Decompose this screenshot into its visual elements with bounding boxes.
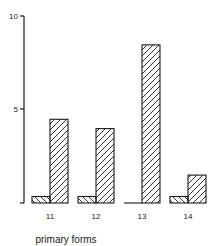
- bar-series-a-12: [78, 196, 96, 203]
- bar-series-b-14: [188, 175, 206, 203]
- bar-series-a-14: [170, 196, 188, 203]
- bars: [32, 45, 206, 203]
- x-axis-label: primary forms: [35, 234, 96, 245]
- category-label-13: 13: [138, 212, 147, 221]
- category-label-14: 14: [184, 212, 193, 221]
- category-labels: 11121314: [46, 212, 193, 221]
- bar-chart: 10 5 11121314 primary forms: [0, 0, 221, 246]
- y-tick-label-10: 10: [9, 12, 18, 21]
- y-axis: 10 5: [9, 12, 24, 203]
- bar-series-b-11: [50, 119, 68, 203]
- y-tick-label-5: 5: [14, 105, 19, 114]
- bar-series-b-13: [142, 45, 160, 203]
- category-label-11: 11: [46, 212, 55, 221]
- bar-series-b-12: [96, 129, 114, 203]
- category-label-12: 12: [92, 212, 101, 221]
- bar-series-a-11: [32, 196, 50, 203]
